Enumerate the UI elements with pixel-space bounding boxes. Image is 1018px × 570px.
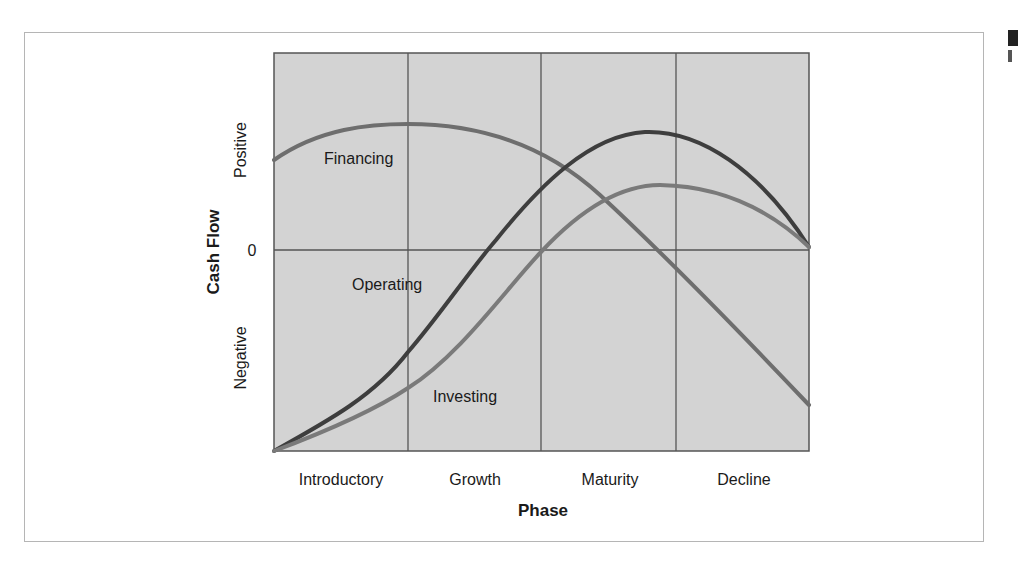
x-tick-introductory: Introductory (299, 471, 383, 488)
cash-flow-chart: Financing Operating Investing Cash Flow … (0, 0, 1018, 570)
cropped-text-fragment (1008, 30, 1018, 46)
y-axis-title: Cash Flow (204, 209, 223, 295)
x-tick-decline: Decline (717, 471, 770, 488)
y-tick-negative: Negative (232, 326, 249, 389)
x-axis-title: Phase (518, 501, 568, 520)
y-tick-zero: 0 (248, 242, 257, 259)
financing-label: Financing (324, 150, 393, 167)
investing-label: Investing (433, 388, 497, 405)
cropped-text-fragment (1008, 50, 1012, 62)
operating-label: Operating (352, 276, 422, 293)
x-tick-growth: Growth (449, 471, 501, 488)
x-tick-maturity: Maturity (582, 471, 639, 488)
y-tick-positive: Positive (232, 122, 249, 178)
